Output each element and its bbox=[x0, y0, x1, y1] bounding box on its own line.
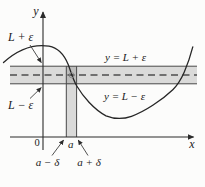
a-minus-delta-label: a − δ bbox=[36, 156, 60, 168]
upper-bound-label: L + ε bbox=[7, 30, 34, 44]
lower-bound-label: L − ε bbox=[7, 98, 34, 112]
limit-definition-figure: y x 0 L + ε L − ε y = L + ε y = L − ε a … bbox=[0, 0, 205, 187]
a-plus-delta-label: a + δ bbox=[77, 156, 101, 168]
y-axis-label: y bbox=[32, 4, 39, 18]
diagram-background bbox=[0, 0, 205, 187]
lower-line-label: y = L − ε bbox=[103, 90, 146, 102]
origin-label: 0 bbox=[34, 137, 39, 148]
delta-band-fill bbox=[66, 66, 77, 137]
x-axis-label: x bbox=[188, 137, 195, 151]
epsilon-band bbox=[10, 66, 197, 84]
limit-diagram: y x 0 L + ε L − ε y = L + ε y = L − ε a … bbox=[0, 0, 205, 187]
a-label: a bbox=[68, 138, 74, 150]
upper-line-label: y = L + ε bbox=[104, 51, 147, 63]
delta-band bbox=[66, 66, 77, 137]
